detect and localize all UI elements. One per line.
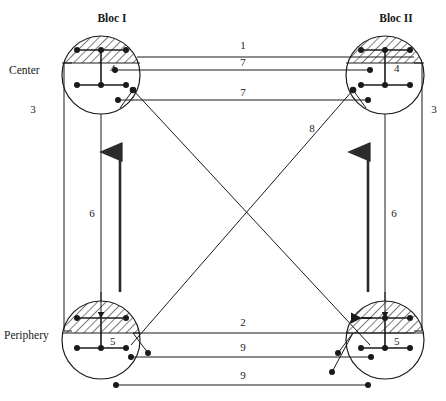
spoke-dot xyxy=(407,82,413,88)
spoke-dot xyxy=(358,82,364,88)
stub-dot xyxy=(335,350,341,356)
spoke-dot xyxy=(74,345,80,351)
network-diagram: 4 4 xyxy=(0,0,446,401)
row-label-periphery: Periphery xyxy=(4,329,49,342)
edge-label-3-left: 3 xyxy=(30,103,36,115)
edge-label-1: 1 xyxy=(240,39,246,51)
row-label-center: Center xyxy=(9,64,40,76)
node-periphery-bloc1[interactable]: 5 xyxy=(58,301,144,379)
edge-label-8: 8 xyxy=(309,122,315,134)
stub-left-a xyxy=(133,333,148,353)
spoke-dot xyxy=(98,47,104,53)
spoke-dot xyxy=(123,315,129,321)
node-center-bloc2[interactable]: 4 xyxy=(342,36,428,114)
diagonal-tl-br xyxy=(133,90,370,345)
spoke-dot xyxy=(407,47,413,53)
node-periphery-bloc1-value: 5 xyxy=(110,335,116,347)
spoke-dot xyxy=(358,47,364,53)
spoke-dot xyxy=(74,315,80,321)
diagonal-links-8 xyxy=(130,87,370,345)
edge-label-6-left: 6 xyxy=(89,207,95,219)
edge-label-7-second: 7 xyxy=(240,86,246,98)
terminal-dot xyxy=(113,382,119,388)
upward-flow-arrows xyxy=(120,152,368,292)
stub-dot xyxy=(145,350,151,356)
spoke-dot xyxy=(382,345,388,351)
spoke-dot xyxy=(98,82,104,88)
edge-label-7-top: 7 xyxy=(240,56,246,68)
edge-label-6-right: 6 xyxy=(391,207,397,219)
spoke-dot xyxy=(98,345,104,351)
node-periphery-bloc2-value: 5 xyxy=(394,335,400,347)
terminal-dot xyxy=(128,354,134,360)
terminal-dot xyxy=(367,67,373,73)
diagram-canvas: 4 4 xyxy=(0,0,446,401)
bloc-2-label: Bloc II xyxy=(379,12,413,24)
spoke-dot xyxy=(407,345,413,351)
terminal-dot xyxy=(115,97,121,103)
edge-label-9-bottom: 9 xyxy=(240,369,246,381)
bottom-horizontal-links xyxy=(113,333,414,388)
stub-dot xyxy=(329,369,335,375)
spoke-dot xyxy=(123,47,129,53)
bloc-1-label: Bloc I xyxy=(97,12,127,24)
spoke-dot xyxy=(382,47,388,53)
spoke-dot xyxy=(123,345,129,351)
terminal-dot xyxy=(365,97,371,103)
top-horizontal-links xyxy=(112,57,414,103)
terminal-dot xyxy=(365,382,371,388)
edge-label-3-right: 3 xyxy=(431,103,437,115)
terminal-dot xyxy=(368,354,374,360)
node-center-bloc2-value: 4 xyxy=(394,62,400,74)
node-periphery-bloc2[interactable]: 5 xyxy=(342,301,428,379)
node-center-bloc1[interactable]: 4 xyxy=(58,36,144,114)
spoke-dot xyxy=(358,345,364,351)
spoke-dot xyxy=(407,315,413,321)
node-center-bloc1-value: 4 xyxy=(110,62,116,74)
stub-right-a xyxy=(338,333,353,353)
spoke-dot xyxy=(382,82,388,88)
spoke-dot xyxy=(382,315,388,321)
spoke-dot xyxy=(74,47,80,53)
diagonal-tr-bl xyxy=(131,90,353,345)
edge-label-2: 2 xyxy=(240,316,246,328)
edge-label-9-top: 9 xyxy=(240,341,246,353)
spoke-dot xyxy=(123,82,129,88)
spoke-dot xyxy=(74,82,80,88)
